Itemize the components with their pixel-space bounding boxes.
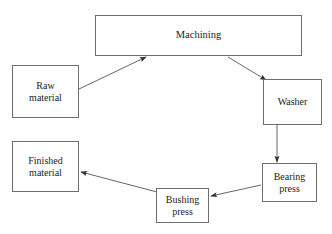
node-machining[interactable]: Machining (95, 15, 302, 56)
edge-machining-to-washer (228, 57, 266, 80)
node-bushing-press-label: Bushing press (164, 194, 201, 218)
edge-raw-to-machining (79, 57, 146, 89)
node-raw-material[interactable]: Raw material (12, 65, 79, 118)
node-machining-label: Machining (174, 29, 224, 41)
node-bearing-press-label: Bearing press (272, 171, 308, 195)
node-finished-material[interactable]: Finished material (12, 141, 79, 192)
node-finished-material-label: Finished material (26, 155, 64, 179)
edge-bushing-to-finished (81, 172, 157, 192)
node-bushing-press[interactable]: Bushing press (156, 188, 209, 223)
node-bearing-press[interactable]: Bearing press (262, 163, 317, 202)
node-washer[interactable]: Washer (263, 79, 322, 125)
node-raw-material-label: Raw material (27, 80, 64, 104)
edge-bearing-to-bushing (211, 185, 261, 196)
diagram-canvas: Machining Raw material Washer Bearing pr… (0, 0, 332, 234)
node-washer-label: Washer (276, 96, 310, 108)
